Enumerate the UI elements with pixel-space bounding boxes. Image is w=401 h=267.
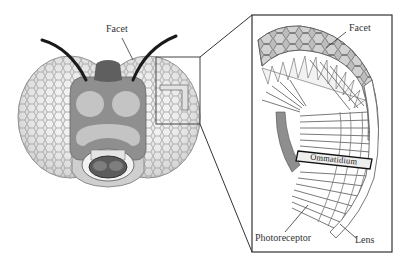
face-plate [70,77,146,160]
photoreceptor-label: Photoreceptor [255,233,311,243]
diagram-svg: Ommatidium [0,0,401,267]
facet-label-detail: Facet [349,23,371,33]
left-light-patch [76,91,104,117]
frons [94,60,122,82]
right-light-patch [112,91,140,117]
head-illustration [18,36,200,187]
compound-eye-diagram: Ommatidium Facet Facet Photoreceptor Len… [0,0,401,267]
facet-leader-head [122,38,133,60]
zoom-connector-lines [200,15,252,252]
detail-panel: Ommatidium [252,15,392,252]
facet-label-head: Facet [106,24,128,34]
lens-label: Lens [355,235,374,245]
